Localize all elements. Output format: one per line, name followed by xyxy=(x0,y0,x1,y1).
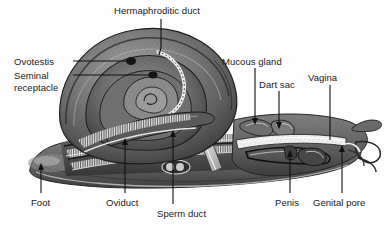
label-sperm-duct: Sperm duct xyxy=(157,208,206,220)
label-genital-pore: Genital pore xyxy=(313,197,365,209)
label-ovotestis: Ovotestis xyxy=(14,56,54,68)
snail-illustration xyxy=(0,0,384,225)
label-dart-sac: Dart sac xyxy=(259,79,295,91)
label-seminal-receptacle: Seminal receptacle xyxy=(14,70,86,93)
label-foot: Foot xyxy=(31,197,50,209)
label-mucous-gland: Mucous gland xyxy=(222,56,282,68)
label-hermaphroditic-duct: Hermaphroditic duct xyxy=(114,5,200,17)
label-penis: Penis xyxy=(275,197,299,209)
snail-anatomy-figure: Hermaphroditic duct Ovotestis Seminal re… xyxy=(0,0,384,225)
label-vagina: Vagina xyxy=(308,72,337,84)
label-oviduct: Oviduct xyxy=(106,197,139,209)
